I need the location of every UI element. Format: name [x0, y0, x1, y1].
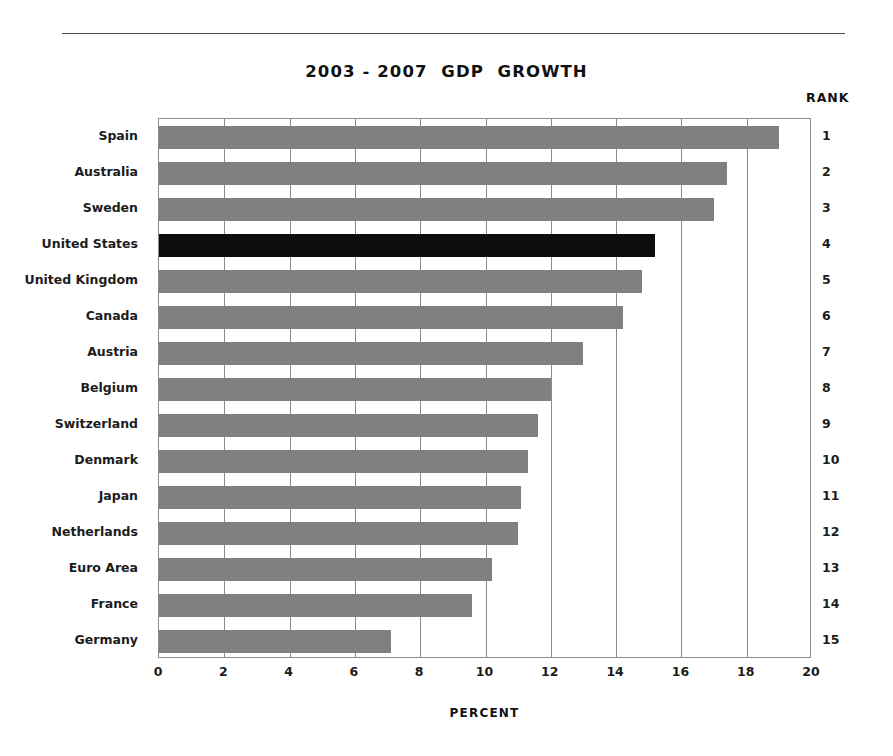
category-label-netherlands: Netherlands: [0, 524, 148, 539]
bar-row: [159, 558, 810, 581]
category-label-united-kingdom: United Kingdom: [0, 272, 148, 287]
bar-belgium: [159, 378, 551, 401]
x-tick-label-0: 0: [138, 664, 178, 679]
bar-row: [159, 162, 810, 185]
category-label-sweden: Sweden: [0, 200, 148, 215]
category-label-australia: Australia: [0, 164, 148, 179]
bar-row: [159, 342, 810, 365]
rank-value-11: 11: [822, 488, 862, 503]
bar-row: [159, 486, 810, 509]
rank-value-3: 3: [822, 200, 862, 215]
bar-switzerland: [159, 414, 538, 437]
rank-column-header: RANK: [806, 90, 886, 105]
rank-value-14: 14: [822, 596, 862, 611]
bar-united-kingdom: [159, 270, 642, 293]
x-tick-label-16: 16: [660, 664, 700, 679]
rank-value-13: 13: [822, 560, 862, 575]
bar-austria: [159, 342, 583, 365]
x-tick-label-4: 4: [269, 664, 309, 679]
plot-area: [158, 118, 811, 658]
category-label-canada: Canada: [0, 308, 148, 323]
rank-value-7: 7: [822, 344, 862, 359]
bar-australia: [159, 162, 727, 185]
category-label-spain: Spain: [0, 128, 148, 143]
category-label-united-states: United States: [0, 236, 148, 251]
category-label-austria: Austria: [0, 344, 148, 359]
rank-value-15: 15: [822, 632, 862, 647]
bar-row: [159, 378, 810, 401]
bar-netherlands: [159, 522, 518, 545]
chart-page: 2003 - 2007 GDP GROWTH RANK 024681012141…: [0, 0, 893, 756]
category-label-switzerland: Switzerland: [0, 416, 148, 431]
bar-canada: [159, 306, 623, 329]
category-label-france: France: [0, 596, 148, 611]
top-divider-rule: [62, 33, 845, 34]
rank-value-4: 4: [822, 236, 862, 251]
category-label-germany: Germany: [0, 632, 148, 647]
x-tick-label-8: 8: [399, 664, 439, 679]
bar-row: [159, 198, 810, 221]
bar-row: [159, 270, 810, 293]
rank-value-12: 12: [822, 524, 862, 539]
bar-row: [159, 522, 810, 545]
bar-row: [159, 234, 810, 257]
bar-france: [159, 594, 472, 617]
x-tick-label-18: 18: [726, 664, 766, 679]
bar-euro-area: [159, 558, 492, 581]
bar-row: [159, 594, 810, 617]
rank-value-9: 9: [822, 416, 862, 431]
bar-row: [159, 306, 810, 329]
chart-title: 2003 - 2007 GDP GROWTH: [0, 62, 893, 81]
x-tick-label-2: 2: [203, 664, 243, 679]
x-tick-label-20: 20: [791, 664, 831, 679]
rank-value-8: 8: [822, 380, 862, 395]
bar-row: [159, 630, 810, 653]
x-tick-label-12: 12: [530, 664, 570, 679]
category-label-belgium: Belgium: [0, 380, 148, 395]
bar-row: [159, 126, 810, 149]
category-label-japan: Japan: [0, 488, 148, 503]
x-tick-label-14: 14: [595, 664, 635, 679]
bar-sweden: [159, 198, 714, 221]
x-axis-title: PERCENT: [158, 706, 811, 720]
bar-japan: [159, 486, 521, 509]
rank-value-2: 2: [822, 164, 862, 179]
bar-germany: [159, 630, 391, 653]
rank-value-5: 5: [822, 272, 862, 287]
bar-denmark: [159, 450, 528, 473]
x-tick-label-6: 6: [334, 664, 374, 679]
x-tick-label-10: 10: [465, 664, 505, 679]
category-label-denmark: Denmark: [0, 452, 148, 467]
bar-row: [159, 450, 810, 473]
rank-value-1: 1: [822, 128, 862, 143]
bar-row: [159, 414, 810, 437]
rank-value-6: 6: [822, 308, 862, 323]
rank-value-10: 10: [822, 452, 862, 467]
bar-spain: [159, 126, 779, 149]
category-label-euro-area: Euro Area: [0, 560, 148, 575]
bar-united-states: [159, 234, 655, 257]
